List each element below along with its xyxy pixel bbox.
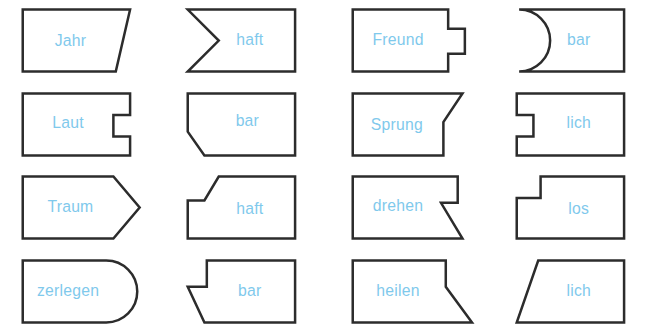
tile-label: Laut (52, 113, 84, 130)
tile-drehen-r3c3[interactable]: drehen (330, 167, 495, 251)
tile-heilen-r4c3[interactable]: heilen (330, 251, 495, 334)
tile-label: Freund (372, 31, 423, 48)
tile-shape-left-edge-notch-inward: lich (494, 84, 659, 168)
tile-bar-r4c2[interactable]: bar (165, 251, 330, 334)
tile-shape-right-edge-notch-inward: Laut (0, 84, 165, 168)
tile-shape-top-left-diagonal-cut: haft (165, 167, 330, 251)
tile-shape-top-left-step-cut: los (494, 167, 659, 251)
tile-shape-left-bottom-slant-inward: bar (165, 84, 330, 168)
tile-haft-r1c2[interactable]: haft (165, 0, 330, 84)
tile-shape-left-edge-concave-arc: bar (494, 0, 659, 84)
tile-los-r3c4[interactable]: los (494, 167, 659, 251)
tile-shape-right-arrow-point-outward: Traum (0, 167, 165, 251)
tile-label: zerlegen (37, 281, 99, 298)
tile-traum-r3c1[interactable]: Traum (0, 167, 165, 251)
tile-label: bar (238, 281, 261, 298)
tile-shape-right-edge-slanted-inward: Jahr (0, 0, 165, 84)
tile-label: bar (567, 31, 590, 48)
tile-shape-right-flare-outward: heilen (330, 251, 495, 334)
tile-lich-r4c4[interactable]: lich (494, 251, 659, 334)
tile-freund-r1c3[interactable]: Freund (330, 0, 495, 84)
tile-grid: JahrhaftFreundbarLautbarSprunglichTraumh… (0, 0, 659, 334)
tile-label: Jahr (55, 32, 87, 49)
tile-zerlegen-r4c1[interactable]: zerlegen (0, 251, 165, 334)
tile-label: haft (236, 31, 264, 48)
tile-bar-r2c2[interactable]: bar (165, 84, 330, 168)
tile-laut-r2c1[interactable]: Laut (0, 84, 165, 168)
tile-shape-right-edge-tab-outward: Freund (330, 0, 495, 84)
tile-lich-r2c4[interactable]: lich (494, 84, 659, 168)
tile-label: lich (567, 281, 592, 298)
tile-label: los (569, 200, 590, 217)
tile-haft-r3c2[interactable]: haft (165, 167, 330, 251)
tile-shape-right-step-with-flare: drehen (330, 167, 495, 251)
tile-shape-left-step-with-slant: bar (165, 251, 330, 334)
tile-shape-right-top-diagonal-step: Sprung (330, 84, 495, 168)
tile-label: Traum (47, 198, 93, 215)
tile-jahr-r1c1[interactable]: Jahr (0, 0, 165, 84)
tile-label: haft (236, 200, 264, 217)
tile-label: bar (235, 112, 258, 129)
tile-sprung-r2c3[interactable]: Sprung (330, 84, 495, 168)
tile-shape-left-edge-v-notch-inward: haft (165, 0, 330, 84)
tile-shape-right-edge-rounded-outward: zerlegen (0, 251, 165, 334)
tile-shape-left-edge-slanted-outward: lich (494, 251, 659, 334)
tile-label: drehen (372, 197, 422, 214)
tile-label: Sprung (370, 115, 422, 132)
tile-bar-r1c4[interactable]: bar (494, 0, 659, 84)
tile-label: heilen (376, 281, 419, 298)
tile-label: lich (567, 113, 592, 130)
